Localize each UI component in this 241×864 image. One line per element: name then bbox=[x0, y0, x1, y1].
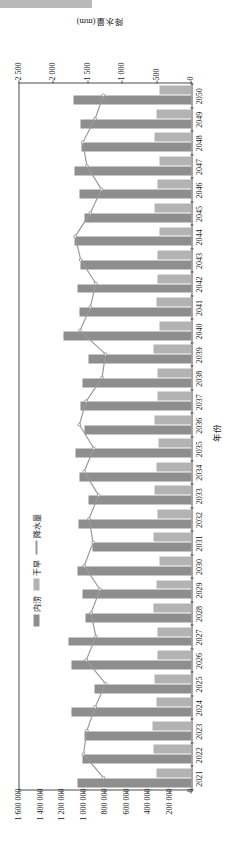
x-axis-title: 年份 bbox=[209, 0, 221, 864]
y-axis-left-tick-mark bbox=[83, 790, 84, 793]
x-axis-tick-mark bbox=[190, 648, 193, 649]
x-axis-tick-mark bbox=[190, 624, 193, 625]
precipitation-point bbox=[81, 140, 84, 143]
y-axis-left-tick-label: 1 000 000 bbox=[78, 788, 87, 844]
x-axis-tick-mark bbox=[190, 530, 193, 531]
x-axis-tick-mark bbox=[190, 295, 193, 296]
y-axis-left-tick-mark bbox=[61, 790, 62, 793]
legend-bar-swatch bbox=[33, 614, 39, 626]
x-axis-tick-mark bbox=[190, 789, 193, 790]
precipitation-point bbox=[87, 517, 90, 520]
x-axis-tick-mark bbox=[190, 507, 193, 508]
legend-bar-swatch bbox=[33, 578, 39, 590]
y-axis-left-tick-mark bbox=[169, 790, 170, 793]
precipitation-point bbox=[89, 611, 92, 614]
precipitation-point bbox=[93, 705, 96, 708]
y-axis-right-tick-label: 0 bbox=[185, 32, 194, 80]
x-axis-tick-mark bbox=[190, 554, 193, 555]
y-axis-right-tick-mark bbox=[87, 80, 88, 83]
precipitation-point bbox=[85, 729, 88, 732]
y-axis-left-tick-label: 400 000 bbox=[142, 788, 151, 844]
chart-legend: 内涝干旱降水量 bbox=[30, 513, 41, 626]
x-axis-tick-mark bbox=[190, 130, 193, 131]
precipitation-point bbox=[84, 658, 87, 661]
precipitation-point bbox=[88, 305, 91, 308]
y-axis-right-tick-label: 2 500 bbox=[13, 32, 22, 80]
y-axis-right-tick-label: 1 500 bbox=[82, 32, 91, 80]
y-axis-left-tick-mark bbox=[104, 790, 105, 793]
precipitation-point bbox=[102, 93, 105, 96]
y-axis-right-tick-label: 1 000 bbox=[116, 32, 125, 80]
legend-item[interactable]: 干旱 bbox=[30, 559, 41, 590]
precipitation-point bbox=[82, 564, 85, 567]
y-axis-right-tick-mark bbox=[121, 80, 122, 83]
legend-item-label: 内涝 bbox=[30, 595, 41, 611]
x-axis-tick-mark bbox=[190, 389, 193, 390]
x-axis-tick-mark bbox=[190, 201, 193, 202]
x-axis-tick-mark bbox=[190, 412, 193, 413]
y-axis-right-tick-mark bbox=[52, 80, 53, 83]
rotated-figure-wrapper: 人畜饮水量(m³/日) 降水量(mm) 年份 1 600 0001 400 00… bbox=[0, 0, 241, 864]
y-axis-left-tick-label: 1 600 000 bbox=[13, 788, 22, 844]
x-axis-tick-mark bbox=[190, 742, 193, 743]
precipitation-point bbox=[78, 329, 81, 332]
x-axis-tick-mark bbox=[190, 483, 193, 484]
x-axis-tick-mark bbox=[190, 342, 193, 343]
x-axis-tick-mark bbox=[190, 695, 193, 696]
y-axis-left-tick-mark bbox=[147, 790, 148, 793]
x-axis-tick-mark bbox=[190, 107, 193, 108]
precipitation-point bbox=[79, 258, 82, 261]
precipitation-point bbox=[91, 541, 94, 544]
legend-item-label: 干旱 bbox=[30, 559, 41, 575]
y-axis-right-title: 降水量(mm) bbox=[76, 16, 122, 28]
x-axis-tick-mark bbox=[190, 248, 193, 249]
legend-item-label: 降水量 bbox=[30, 513, 41, 537]
x-axis-tick-mark bbox=[190, 154, 193, 155]
precipitation-line bbox=[75, 95, 105, 777]
y-axis-left-tick-mark bbox=[126, 790, 127, 793]
legend-item[interactable]: 内涝 bbox=[30, 595, 41, 626]
x-axis-tick-mark bbox=[190, 436, 193, 437]
y-axis-left-tick-label: 1 200 000 bbox=[56, 788, 65, 844]
x-axis-tick-mark bbox=[190, 318, 193, 319]
y-axis-left-tick-label: 1 400 000 bbox=[35, 788, 44, 844]
precipitation-point bbox=[82, 752, 85, 755]
y-axis-right-tick-label: 500 bbox=[151, 32, 160, 80]
y-axis-right-tick-label: 2 000 bbox=[47, 32, 56, 80]
precipitation-point bbox=[84, 399, 87, 402]
y-axis-left-tick-mark bbox=[40, 790, 41, 793]
precipitation-point bbox=[82, 470, 85, 473]
y-axis-right-tick-mark bbox=[18, 80, 19, 83]
legend-item[interactable]: 降水量 bbox=[30, 513, 41, 554]
x-axis-tick-mark bbox=[190, 765, 193, 766]
x-axis-tick-mark bbox=[190, 177, 193, 178]
precipitation-point bbox=[100, 376, 103, 379]
x-axis-tick-mark bbox=[190, 460, 193, 461]
y-axis-left-tick-label: 800 000 bbox=[99, 788, 108, 844]
precipitation-point bbox=[88, 211, 91, 214]
precipitation-point bbox=[94, 635, 97, 638]
page-root: 人畜饮水量(m³/日) 降水量(mm) 年份 1 600 0001 400 00… bbox=[0, 0, 241, 864]
y-axis-right-tick-mark bbox=[156, 80, 157, 83]
precipitation-point bbox=[77, 423, 80, 426]
x-axis-tick-label: 2050 bbox=[194, 81, 203, 111]
y-axis-left-tick-label: 0 bbox=[185, 788, 194, 844]
x-axis-tick-mark bbox=[190, 601, 193, 602]
x-axis-tick-mark bbox=[190, 224, 193, 225]
x-axis-tick-mark bbox=[190, 671, 193, 672]
x-axis-tick-mark bbox=[190, 271, 193, 272]
x-axis-tick-mark bbox=[190, 365, 193, 366]
x-axis-tick-mark bbox=[190, 577, 193, 578]
x-axis-tick-mark bbox=[190, 83, 193, 84]
plot-area bbox=[18, 82, 192, 790]
y-axis-left-tick-label: 200 000 bbox=[164, 788, 173, 844]
precipitation-point bbox=[73, 235, 76, 238]
y-axis-left-tick-label: 600 000 bbox=[121, 788, 130, 844]
legend-line-swatch bbox=[35, 540, 37, 554]
x-axis-tick-mark bbox=[190, 718, 193, 719]
y-axis-left-tick-mark bbox=[18, 790, 19, 793]
precipitation-line-layer bbox=[19, 83, 191, 789]
precipitation-point bbox=[85, 164, 88, 167]
chart-figure: 人畜饮水量(m³/日) 降水量(mm) 年份 1 600 0001 400 00… bbox=[0, 0, 241, 864]
precipitation-point bbox=[93, 117, 96, 120]
